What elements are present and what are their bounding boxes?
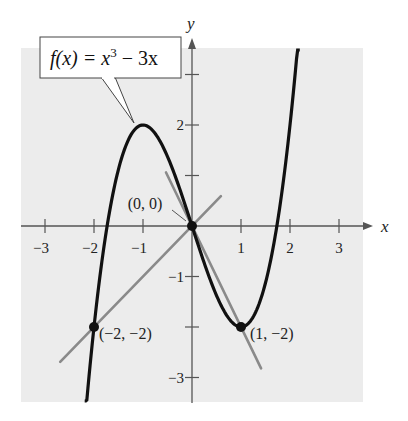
x-tick-label: 2	[286, 240, 294, 256]
x-tick-label: 3	[335, 240, 343, 256]
point-marker	[236, 322, 246, 332]
point-label-1-neg2: (1, −2)	[250, 325, 294, 343]
point-label-origin: (0, 0)	[128, 195, 163, 213]
y-tick-label: −1	[168, 269, 184, 285]
function-label-main: f(x) = x	[50, 47, 110, 70]
y-tick-label: −3	[168, 370, 184, 386]
point-label-neg2-neg2: (−2, −2)	[99, 325, 152, 343]
graph: −3−2−1123 −3−12 x y (0, 0) (−2, −2) (1, …	[0, 0, 408, 421]
y-axis-arrow-icon	[188, 38, 196, 49]
y-axis-label: y	[185, 14, 195, 33]
x-tick-label: −2	[82, 240, 98, 256]
point-marker	[89, 322, 99, 332]
x-tick-label: 1	[237, 240, 245, 256]
x-axis-arrow-icon	[363, 222, 373, 230]
function-label-rest: − 3x	[117, 47, 158, 69]
y-tick-label: 2	[177, 117, 185, 133]
x-axis-label: x	[380, 217, 389, 236]
x-tick-label: −3	[33, 240, 49, 256]
x-tick-label: −1	[131, 240, 147, 256]
point-marker	[187, 221, 197, 231]
function-label: f(x) = x3 − 3x	[50, 45, 158, 70]
